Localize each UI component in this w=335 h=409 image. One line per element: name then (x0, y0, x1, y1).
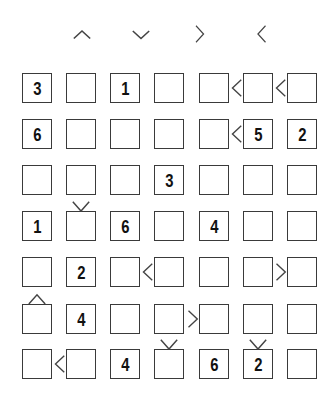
cell-r6-c1[interactable] (66, 349, 96, 379)
cell-r5-c6[interactable] (287, 304, 317, 334)
cell-r4-c0[interactable] (22, 257, 52, 287)
cell-r1-c1[interactable] (66, 119, 96, 149)
less-than-icon (229, 78, 243, 98)
given-digit: 1 (33, 217, 41, 236)
cell-r6-c5[interactable]: 2 (243, 349, 273, 379)
cell-r4-c2[interactable] (110, 257, 140, 287)
cell-r4-c6[interactable] (287, 257, 317, 287)
cell-r3-c4[interactable]: 4 (199, 211, 229, 241)
cell-r2-c2[interactable] (110, 165, 140, 195)
cell-r3-c6[interactable] (287, 211, 317, 241)
given-digit: 6 (33, 125, 41, 144)
down-caret-icon (159, 338, 179, 350)
given-digit: 6 (121, 217, 129, 236)
cell-r2-c0[interactable] (22, 165, 52, 195)
cell-r0-c2[interactable]: 1 (110, 73, 140, 103)
down-caret-icon (131, 28, 151, 40)
cell-r6-c2[interactable]: 4 (110, 349, 140, 379)
cell-r5-c2[interactable] (110, 304, 140, 334)
less-than-icon (52, 354, 66, 374)
cell-r4-c4[interactable] (199, 257, 229, 287)
given-digit: 1 (121, 79, 129, 98)
down-caret-icon (71, 200, 91, 212)
cell-r6-c3[interactable] (154, 349, 184, 379)
cell-r1-c3[interactable] (154, 119, 184, 149)
cell-r6-c4[interactable]: 6 (199, 349, 229, 379)
less-than-icon (140, 262, 154, 282)
cell-r5-c0[interactable] (22, 304, 52, 334)
cell-r1-c2[interactable] (110, 119, 140, 149)
cell-r5-c1[interactable]: 4 (66, 304, 96, 334)
cell-r4-c5[interactable] (243, 257, 273, 287)
given-digit: 3 (165, 171, 173, 190)
less-than-icon (273, 78, 287, 98)
given-digit: 2 (77, 263, 85, 282)
cell-r4-c3[interactable] (154, 257, 184, 287)
cell-r1-c4[interactable] (199, 119, 229, 149)
cell-r2-c4[interactable] (199, 165, 229, 195)
down-caret-icon (248, 338, 268, 350)
given-digit: 6 (210, 355, 218, 374)
given-digit: 4 (77, 310, 85, 329)
cell-r1-c6[interactable]: 2 (287, 119, 317, 149)
less-than-icon (229, 124, 243, 144)
cell-r6-c0[interactable] (22, 349, 52, 379)
cell-r2-c5[interactable] (243, 165, 273, 195)
given-digit: 5 (254, 125, 262, 144)
cell-r0-c5[interactable] (243, 73, 273, 103)
cell-r5-c5[interactable] (243, 304, 273, 334)
cell-r3-c0[interactable]: 1 (22, 211, 52, 241)
cell-r0-c0[interactable]: 3 (22, 73, 52, 103)
greater-than-icon (185, 309, 199, 329)
given-digit: 2 (254, 355, 262, 374)
cell-r2-c6[interactable] (287, 165, 317, 195)
cell-r0-c4[interactable] (199, 73, 229, 103)
greater-than-icon (193, 24, 205, 44)
greater-than-icon (273, 262, 287, 282)
up-caret-icon (72, 28, 92, 40)
cell-r0-c1[interactable] (66, 73, 96, 103)
given-digit: 4 (210, 217, 218, 236)
cell-r1-c5[interactable]: 5 (243, 119, 273, 149)
cell-r5-c3[interactable] (154, 304, 184, 334)
given-digit: 4 (121, 355, 129, 374)
cell-r4-c1[interactable]: 2 (66, 257, 96, 287)
cell-r3-c5[interactable] (243, 211, 273, 241)
up-caret-icon (27, 293, 47, 305)
cell-r5-c4[interactable] (199, 304, 229, 334)
cell-r2-c1[interactable] (66, 165, 96, 195)
given-digit: 2 (298, 125, 306, 144)
less-than-icon (255, 24, 267, 44)
cell-r3-c3[interactable] (154, 211, 184, 241)
cell-r6-c6[interactable] (287, 349, 317, 379)
cell-r0-c6[interactable] (287, 73, 317, 103)
cell-r3-c1[interactable] (66, 211, 96, 241)
cell-r3-c2[interactable]: 6 (110, 211, 140, 241)
cell-r1-c0[interactable]: 6 (22, 119, 52, 149)
given-digit: 3 (33, 79, 41, 98)
cell-r2-c3[interactable]: 3 (154, 165, 184, 195)
cell-r0-c3[interactable] (154, 73, 184, 103)
